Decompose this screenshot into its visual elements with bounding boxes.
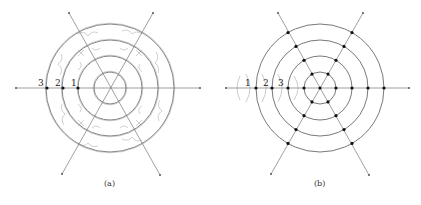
label-1-b: 1 <box>245 78 251 88</box>
label-1-a: 1 <box>71 78 77 88</box>
diagram-canvas: 3 2 1 (a) <box>0 0 421 205</box>
caption-a: (a) <box>104 179 115 188</box>
panel-b: 1 2 3 (b) <box>225 12 410 188</box>
label-2-a: 2 <box>55 78 61 88</box>
ray-endpoints-b <box>225 12 410 176</box>
caption-b: (b) <box>314 179 325 188</box>
panel-a: 3 2 1 (a) <box>15 12 201 188</box>
rays-b <box>226 13 409 175</box>
rays-a <box>16 13 200 175</box>
label-2-b: 2 <box>263 78 269 88</box>
ray-endpoints-a <box>15 12 201 176</box>
label-3-a: 3 <box>38 78 44 88</box>
label-3-b: 3 <box>278 78 284 88</box>
